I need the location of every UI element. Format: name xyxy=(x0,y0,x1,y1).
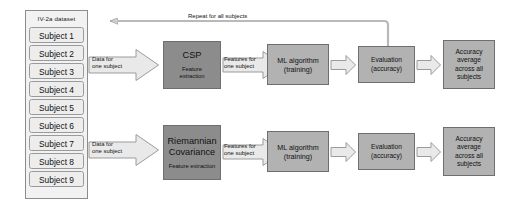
riemannian-block-subtitle: Feature extraction xyxy=(169,163,216,170)
top-accuracy-line4: subjects xyxy=(457,73,481,81)
top-accuracy-line3: across all xyxy=(455,65,483,73)
top-ml-to-eval-arrow xyxy=(330,54,357,76)
top-accuracy-line1: Accuracy xyxy=(455,48,482,56)
bottom-accuracy-line2: average xyxy=(457,143,481,151)
riemannian-block-title-line2: Covariance xyxy=(169,147,215,158)
bottom-features-arrow-label-line1: Features for xyxy=(224,143,256,149)
subject-item-1[interactable]: Subject 1 xyxy=(29,27,84,43)
top-input-arrow-label-line1: Data for xyxy=(92,56,113,62)
subject-item-2[interactable]: Subject 2 xyxy=(29,45,84,61)
bottom-eval-to-accuracy-arrow xyxy=(416,141,442,163)
top-accuracy-line2: average xyxy=(457,56,481,64)
top-ml-algorithm-block[interactable]: ML algorithm (training) xyxy=(267,44,329,85)
top-features-arrow-label-line2: one subject xyxy=(224,63,254,69)
top-eval-block-line1: Evaluation xyxy=(371,56,402,64)
subject-item-7[interactable]: Subject 7 xyxy=(29,135,84,151)
bottom-ml-block-line2: (training) xyxy=(284,152,312,161)
subject-item-8[interactable]: Subject 8 xyxy=(29,153,84,169)
bottom-accuracy-line4: subjects xyxy=(457,160,481,168)
dataset-title: IV-2a dataset xyxy=(25,12,88,25)
bottom-evaluation-block[interactable]: Evaluation (accuracy) xyxy=(358,133,415,170)
bottom-ml-to-eval-arrow xyxy=(330,141,357,163)
csp-block-subtitle: Feature extraction xyxy=(179,66,204,80)
bottom-eval-block-line1: Evaluation xyxy=(371,143,402,151)
bottom-accuracy-line3: across all xyxy=(455,152,483,160)
bottom-ml-block-line1: ML algorithm xyxy=(277,143,318,152)
bottom-features-arrow-label-line2: one subject xyxy=(224,150,254,156)
top-input-arrow-label-line2: one subject xyxy=(92,63,122,69)
csp-block-subtitle-line2: extraction xyxy=(179,73,204,79)
csp-feature-extraction-block[interactable]: CSP Feature extraction xyxy=(163,41,221,89)
top-features-arrow-label-line1: Features for xyxy=(224,56,256,62)
subject-item-9[interactable]: Subject 9 xyxy=(29,171,84,187)
top-evaluation-block[interactable]: Evaluation (accuracy) xyxy=(358,46,415,83)
bottom-features-arrow-label: Features for one subject xyxy=(224,143,268,158)
top-ml-block-line2: (training) xyxy=(284,65,312,74)
subject-item-5[interactable]: Subject 5 xyxy=(29,99,84,115)
riemannian-covariance-block[interactable]: Riemannian Covariance Feature extraction xyxy=(163,125,221,180)
top-eval-block-line2: (accuracy) xyxy=(371,65,402,73)
top-input-arrow-label: Data for one subject xyxy=(92,56,140,71)
csp-block-subtitle-line1: Feature xyxy=(182,66,202,72)
subject-item-4[interactable]: Subject 4 xyxy=(29,81,84,97)
top-features-arrow-label: Features for one subject xyxy=(224,56,268,71)
bottom-input-arrow-label-line2: one subject xyxy=(92,148,122,154)
subject-item-3[interactable]: Subject 3 xyxy=(29,63,84,79)
riemannian-block-title-line1: Riemannian xyxy=(167,136,216,147)
subject-item-6[interactable]: Subject 6 xyxy=(29,117,84,133)
bottom-input-arrow-label-line1: Data for xyxy=(92,141,113,147)
bottom-accuracy-line1: Accuracy xyxy=(455,135,482,143)
top-accuracy-average-block[interactable]: Accuracy average across all subjects xyxy=(443,40,495,89)
bottom-eval-block-line2: (accuracy) xyxy=(371,152,402,160)
diagram-canvas: IV-2a dataset Subject 1 Subject 2 Subjec… xyxy=(0,0,505,209)
top-ml-block-line1: ML algorithm xyxy=(277,56,318,65)
top-eval-to-accuracy-arrow xyxy=(416,54,442,76)
bottom-ml-algorithm-block[interactable]: ML algorithm (training) xyxy=(267,131,329,172)
bottom-accuracy-average-block[interactable]: Accuracy average across all subjects xyxy=(443,127,495,176)
repeat-loop-label: Repeat for all subjects xyxy=(188,12,247,20)
bottom-input-arrow-label: Data for one subject xyxy=(92,141,140,156)
csp-block-title: CSP xyxy=(183,50,202,61)
